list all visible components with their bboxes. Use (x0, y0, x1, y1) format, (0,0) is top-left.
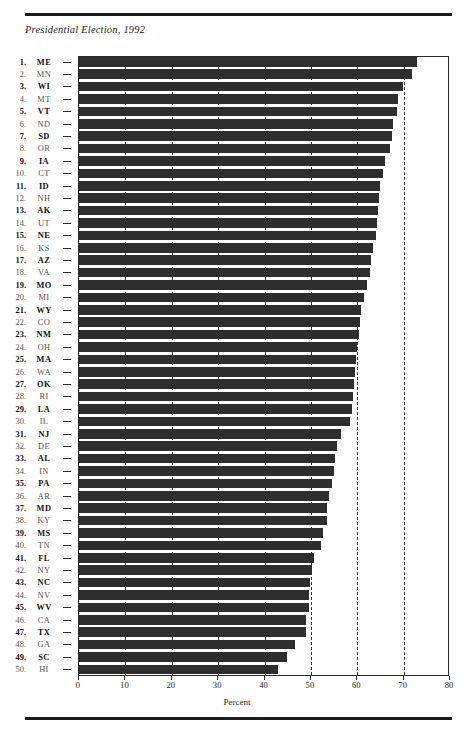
category-label-NH: 12.NH (0, 192, 78, 204)
bar-WI (78, 82, 403, 92)
category-state-abbr: OR (30, 144, 58, 153)
category-label-NE: 15.NE (0, 230, 78, 242)
category-label-KY: 38.KY (0, 515, 78, 527)
category-label-NC: 43.NC (0, 577, 78, 589)
category-label-OR: 8.OR (0, 143, 78, 155)
bar-ID (78, 181, 380, 191)
bar-WA (78, 367, 355, 377)
category-state-abbr: NC (30, 578, 58, 587)
category-rank: 17. (0, 256, 30, 265)
axis-tick-mark (63, 260, 71, 261)
x-tick-mark-20 (171, 676, 172, 680)
category-rank: 27. (0, 380, 30, 389)
axis-tick-mark (63, 74, 71, 75)
axis-tick-mark (63, 644, 71, 645)
category-label-CA: 46.CA (0, 614, 78, 626)
bar-row (78, 366, 449, 378)
category-rank: 40. (0, 541, 30, 550)
bar-row (78, 453, 449, 465)
bar-NY (78, 565, 312, 575)
bar-MN (78, 69, 412, 79)
bar-NV (78, 590, 309, 600)
category-label-IA: 9.IA (0, 155, 78, 167)
bar-SC (78, 652, 287, 662)
axis-tick-mark (63, 669, 71, 670)
bar-DE (78, 441, 337, 451)
bar-CO (78, 317, 360, 327)
category-rank: 19. (0, 281, 30, 290)
category-label-NM: 23.NM (0, 329, 78, 341)
bar-row (78, 254, 449, 266)
x-tick-label-70: 70 (398, 680, 407, 690)
category-state-abbr: KY (30, 516, 58, 525)
bar-row (78, 639, 449, 651)
bar-row (78, 614, 449, 626)
category-rank: 38. (0, 516, 30, 525)
category-label-MS: 39.MS (0, 527, 78, 539)
axis-tick-mark (63, 520, 71, 521)
category-state-abbr: UT (30, 219, 58, 228)
axis-tick-mark (63, 322, 71, 323)
category-state-abbr: WI (30, 82, 58, 91)
axis-tick-mark (63, 446, 71, 447)
category-rank: 8. (0, 144, 30, 153)
category-label-MT: 4.MT (0, 93, 78, 105)
bar-row (78, 651, 449, 663)
bar-row (78, 341, 449, 353)
bar-row (78, 577, 449, 589)
category-label-ND: 6.ND (0, 118, 78, 130)
axis-tick-mark (63, 186, 71, 187)
bar-NM (78, 330, 359, 340)
category-rank: 37. (0, 504, 30, 513)
bar-OK (78, 379, 354, 389)
bar-row (78, 143, 449, 155)
bar-row (78, 56, 449, 68)
bar-IN (78, 466, 334, 476)
axis-tick-mark (63, 632, 71, 633)
category-state-abbr: AR (30, 492, 58, 501)
category-label-WI: 3.WI (0, 81, 78, 93)
bars-container (78, 56, 449, 676)
bar-VT (78, 107, 397, 117)
axis-tick-mark (63, 359, 71, 360)
category-state-abbr: IL (30, 417, 58, 426)
category-state-abbr: NJ (30, 430, 58, 439)
bar-FL (78, 553, 314, 563)
category-state-abbr: AK (30, 206, 58, 215)
x-tick-label-10: 10 (120, 680, 129, 690)
bar-AK (78, 206, 378, 216)
axis-tick-mark (63, 458, 71, 459)
category-rank: 28. (0, 392, 30, 401)
bar-MA (78, 355, 356, 365)
bar-NC (78, 578, 310, 588)
category-state-abbr: WV (30, 603, 58, 612)
axis-tick-mark (63, 99, 71, 100)
category-label-AK: 13.AK (0, 205, 78, 217)
bar-row (78, 552, 449, 564)
bar-KY (78, 516, 327, 526)
bar-row (78, 230, 449, 242)
category-rank: 44. (0, 591, 30, 600)
bar-NH (78, 193, 379, 203)
category-label-ME: 1.ME (0, 56, 78, 68)
category-rank: 23. (0, 330, 30, 339)
axis-tick-mark (63, 620, 71, 621)
bar-row (78, 279, 449, 291)
category-state-abbr: IA (30, 157, 58, 166)
plot-area (78, 56, 449, 676)
bar-row (78, 428, 449, 440)
axis-tick-mark (63, 198, 71, 199)
x-tick-mark-0 (78, 676, 79, 680)
bar-CT (78, 169, 383, 179)
axis-tick-mark (63, 334, 71, 335)
category-state-abbr: TN (30, 541, 58, 550)
axis-tick-mark (63, 310, 71, 311)
axis-tick-mark (63, 558, 71, 559)
x-tick-label-60: 60 (352, 680, 361, 690)
category-state-abbr: DE (30, 442, 58, 451)
category-label-TX: 47.TX (0, 626, 78, 638)
axis-tick-mark (63, 285, 71, 286)
bar-KS (78, 243, 373, 253)
bar-OR (78, 144, 390, 154)
bar-row (78, 540, 449, 552)
